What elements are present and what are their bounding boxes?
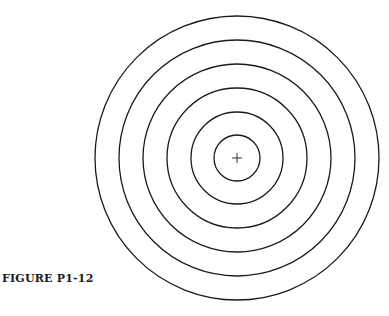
concentric-circles-diagram	[0, 0, 389, 316]
figure-caption: FIGURE P1-12	[2, 272, 94, 285]
center-crosshair-icon	[232, 153, 242, 163]
